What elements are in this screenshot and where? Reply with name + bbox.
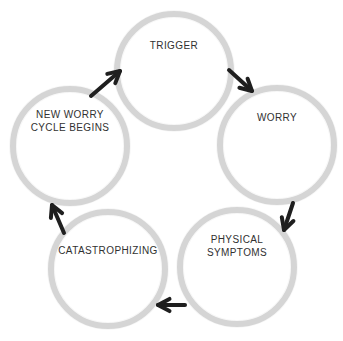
arrow-physical-symptoms-to-catastrophizing: [158, 299, 185, 311]
node-trigger-label: TRIGGER: [120, 39, 228, 52]
node-physical-symptoms-label: PHYSICAL SYMPTOMS: [183, 233, 291, 259]
node-worry-label-line: WORRY: [223, 111, 331, 124]
node-new-worry-label-line-2: CYCLE BEGINS: [16, 121, 124, 134]
node-physical-symptoms-label-line-1: PHYSICAL: [183, 233, 291, 246]
node-trigger-label-line: TRIGGER: [120, 39, 228, 52]
node-catastrophizing-label: CATASTROPHIZING: [54, 244, 162, 257]
node-new-worry-label-line-1: NEW WORRY: [16, 108, 124, 121]
node-physical-symptoms-label-line-2: SYMPTOMS: [183, 246, 291, 259]
node-physical-symptoms: PHYSICAL SYMPTOMS: [177, 207, 297, 327]
worry-cycle-diagram: TRIGGER WORRY PHYSICAL SYMPTOMS CATASTRO…: [0, 0, 343, 341]
node-worry: WORRY: [217, 85, 337, 205]
node-trigger: TRIGGER: [114, 11, 234, 131]
node-catastrophizing-label-line: CATASTROPHIZING: [54, 244, 162, 257]
node-catastrophizing: CATASTROPHIZING: [48, 209, 168, 329]
node-worry-label: WORRY: [223, 111, 331, 124]
node-new-worry-cycle-begins: NEW WORRY CYCLE BEGINS: [10, 86, 130, 206]
node-new-worry-cycle-begins-label: NEW WORRY CYCLE BEGINS: [16, 108, 124, 134]
arrow-worry-to-physical-symptoms: [282, 203, 294, 230]
